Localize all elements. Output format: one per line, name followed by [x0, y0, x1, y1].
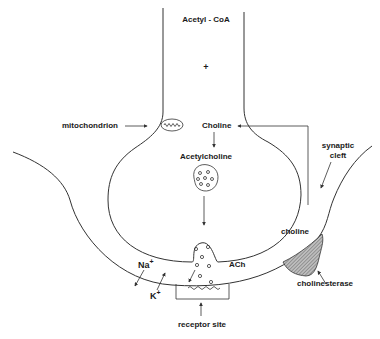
choline-reuptake-arrow: [238, 126, 308, 205]
potassium-flux-arrow: [157, 273, 165, 290]
ach-to-receptor-arrow: [189, 270, 195, 282]
acetyl-coa-label: Acetyl - CoA: [182, 15, 230, 24]
receptor-site-icon: [176, 284, 229, 299]
mitochondrion-icon: [161, 119, 183, 131]
sodium-ion-label: Na+: [138, 258, 154, 270]
synaptic-cleft-label-line1: synaptic: [322, 141, 355, 150]
synaptic-cleft-pointer-arrow: [321, 162, 331, 188]
ach-label: ACh: [229, 260, 246, 269]
cholinesterase-enzyme: [283, 234, 323, 276]
postsynaptic-membrane: [13, 146, 372, 286]
synaptic-cleft-label-line2: cleft: [330, 151, 347, 160]
plus-sign: +: [203, 62, 208, 72]
receptor-site-label: receptor site: [178, 320, 227, 329]
choline-label: Choline: [202, 121, 232, 130]
synaptic-vesicle-icon: [194, 165, 218, 191]
cholinergic-synapse-diagram: Acetyl - CoA + mitochondrion Choline Ace…: [0, 0, 380, 339]
postsynaptic-cell: [13, 146, 372, 286]
acetylcholine-label: Acetylcholine: [180, 152, 233, 161]
potassium-ion-label: K+: [150, 289, 161, 301]
sodium-flux-arrow: [135, 270, 144, 286]
cholinesterase-label: cholinesterase: [297, 279, 354, 288]
mitochondrion-label: mitochondrion: [62, 121, 118, 130]
ach-molecules: [194, 245, 212, 283]
presynaptic-terminal: [108, 8, 301, 262]
presynaptic-membrane: [108, 8, 301, 262]
cleft-choline-label: choline: [281, 227, 310, 236]
